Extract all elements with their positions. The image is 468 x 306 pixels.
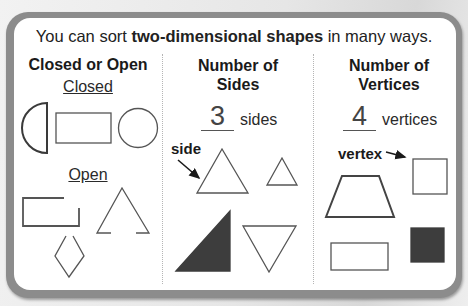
small-triangle-shape bbox=[267, 158, 297, 185]
inverted-triangle-shape bbox=[243, 226, 296, 272]
open-rectangle-shape bbox=[23, 198, 79, 226]
half-circle-shape bbox=[22, 103, 47, 153]
filled-square-shape bbox=[411, 228, 444, 262]
trapezoid-shape bbox=[326, 176, 394, 217]
filled-right-triangle-shape bbox=[176, 211, 230, 271]
side-arrow-icon bbox=[178, 160, 199, 178]
open-rhombus-shape bbox=[55, 236, 84, 277]
vertex-arrow-icon bbox=[386, 152, 405, 157]
vertices-rectangle-shape bbox=[331, 243, 388, 270]
triangle-shape bbox=[197, 149, 248, 193]
open-triangle-shape bbox=[97, 188, 149, 233]
square-shape bbox=[413, 159, 447, 194]
closed-rectangle-shape bbox=[56, 113, 111, 143]
shapes-canvas bbox=[0, 0, 468, 306]
circle-shape bbox=[119, 109, 158, 148]
